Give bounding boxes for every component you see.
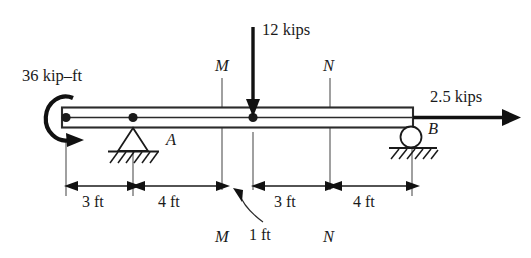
dimension-1ft-leader xyxy=(233,188,263,222)
dimension-3ft-right xyxy=(251,181,339,191)
section-label-m-bottom: M xyxy=(214,227,230,246)
point-load-arrow xyxy=(246,27,260,117)
pin-support-hatching xyxy=(110,152,158,163)
moment-load-label: 36 kip–ft xyxy=(22,66,82,85)
node-dot-support-a xyxy=(128,113,137,122)
section-label-m-top: M xyxy=(214,56,230,75)
beam-diagram-canvas: 36 kip–ft 12 kips 2.5 kips A xyxy=(0,0,531,258)
roller-support-hatching xyxy=(391,149,438,159)
dimension-4ft-right xyxy=(328,181,420,191)
beam-member xyxy=(62,108,413,128)
axial-load-label: 2.5 kips xyxy=(430,87,482,106)
section-label-n-bottom: N xyxy=(322,227,335,246)
dimension-3ft-left xyxy=(64,181,141,191)
dimension-label-3ft-left: 3 ft xyxy=(82,193,104,210)
dimension-label-4ft-right: 4 ft xyxy=(353,193,375,210)
support-label-a: A xyxy=(165,130,177,149)
beam-diagram-figure: 36 kip–ft 12 kips 2.5 kips A xyxy=(0,0,531,258)
dimension-label-3ft-right: 3 ft xyxy=(274,193,296,210)
dimension-label-1ft: 1 ft xyxy=(249,226,271,243)
node-dot-left-end xyxy=(61,113,70,122)
support-label-b: B xyxy=(428,119,438,138)
point-load-label: 12 kips xyxy=(262,20,310,39)
dimension-4ft-left xyxy=(131,181,230,191)
section-label-n-top: N xyxy=(322,56,335,75)
dimension-label-4ft-left: 4 ft xyxy=(158,193,180,210)
